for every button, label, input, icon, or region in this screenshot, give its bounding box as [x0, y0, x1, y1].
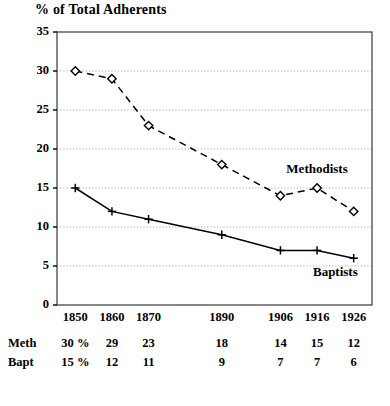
x-axis-tick-label: 1860 [99, 311, 124, 324]
x-axis-tick-label: 1870 [136, 311, 161, 324]
marker-methodists-1850 [71, 67, 79, 75]
y-axis-tick-label: 5 [19, 259, 49, 271]
y-axis-tick-label: 25 [19, 103, 49, 115]
table-cell: 12 [347, 336, 360, 351]
table-row: Bapt15 %12119776 [0, 355, 390, 374]
table-cell: 6 [351, 355, 357, 370]
marker-baptists-1850 [71, 184, 79, 192]
table-cell: 14 [274, 336, 287, 351]
marker-methodists-1906 [276, 192, 284, 200]
y-axis-tick-label: 0 [19, 298, 49, 310]
data-table: Meth30 %292318141512Bapt15 %12119776 [0, 336, 390, 374]
marker-methodists-1890 [218, 160, 226, 168]
marker-baptists-1906 [276, 246, 284, 254]
marker-baptists-1870 [144, 215, 152, 223]
series-label-methodists: Methodists [286, 161, 347, 177]
y-axis-tick-label: 15 [19, 181, 49, 193]
series-label-baptists: Baptists [313, 264, 358, 280]
x-axis-tick-label: 1906 [268, 311, 293, 324]
table-row-label: Meth [8, 336, 36, 351]
marker-methodists-1916 [313, 184, 321, 192]
table-cell: 23 [142, 336, 155, 351]
marker-baptists-1890 [218, 231, 226, 239]
marker-baptists-1860 [108, 207, 116, 215]
y-axis-tick-label: 35 [19, 25, 49, 37]
table-cell: 12 [106, 355, 119, 370]
y-axis-tick-label: 20 [19, 142, 49, 154]
y-axis-tick-label: 30 [19, 64, 49, 76]
table-cell: 7 [314, 355, 320, 370]
table-cell: 9 [219, 355, 225, 370]
series-line-baptists [75, 188, 353, 258]
marker-baptists-1926 [349, 254, 357, 262]
marker-baptists-1916 [313, 246, 321, 254]
x-axis-tick-label: 1850 [63, 311, 88, 324]
x-axis-tick-label: 1926 [341, 311, 366, 324]
table-cell: 15 [311, 336, 324, 351]
x-axis-tick-label: 1916 [305, 311, 330, 324]
table-row-label: Bapt [8, 355, 34, 370]
x-axis-tick-label: 1890 [209, 311, 234, 324]
series-line-methodists [75, 71, 353, 211]
table-cell: 30 % [61, 336, 89, 351]
table-cell: 15 % [61, 355, 89, 370]
table-cell: 7 [277, 355, 283, 370]
table-cell: 18 [216, 336, 229, 351]
chart-figure: % of Total Adherents 35302520151050 1850… [0, 0, 390, 406]
marker-methodists-1870 [144, 121, 152, 129]
table-cell: 11 [143, 355, 155, 370]
marker-methodists-1926 [350, 207, 358, 215]
y-axis-tick-label: 10 [19, 220, 49, 232]
table-row: Meth30 %292318141512 [0, 336, 390, 355]
table-cell: 29 [106, 336, 119, 351]
